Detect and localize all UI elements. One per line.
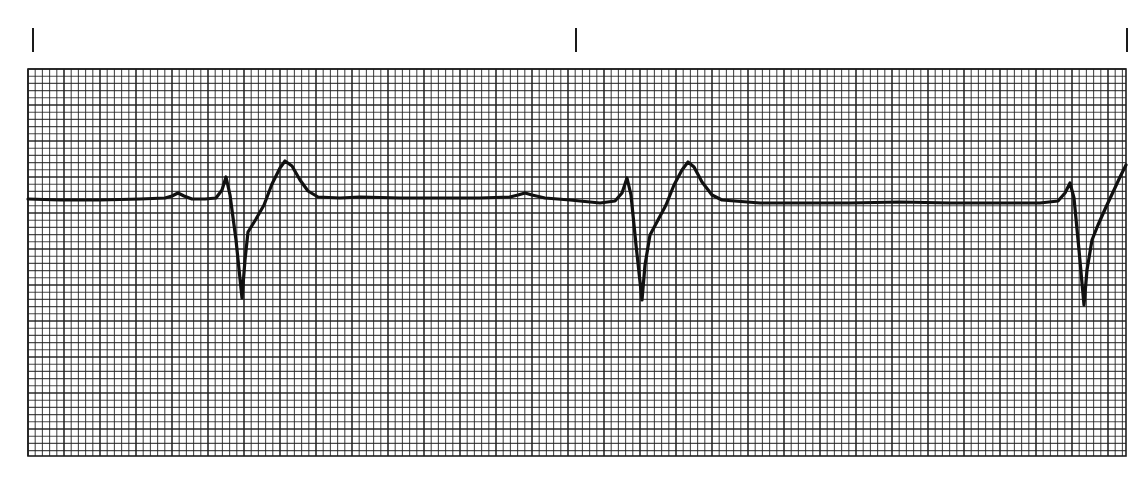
ecg-grid-minor — [28, 69, 1126, 456]
ecg-strip — [0, 0, 1148, 481]
ecg-trace-line — [28, 161, 1126, 305]
